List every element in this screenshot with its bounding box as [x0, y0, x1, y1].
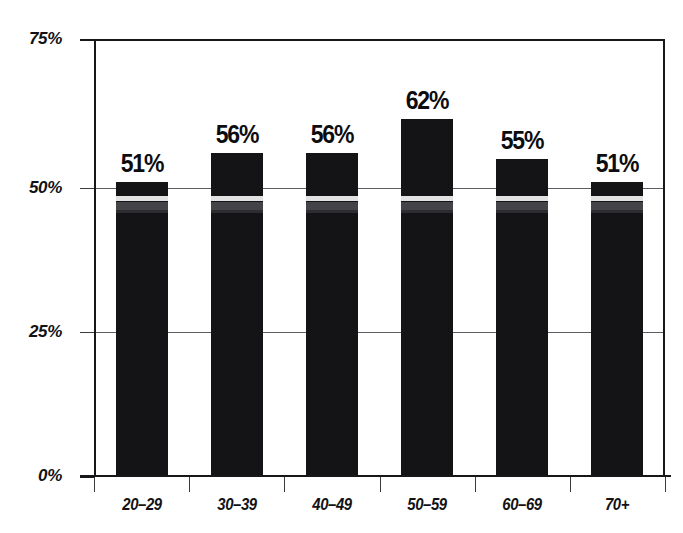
bar: [306, 153, 358, 476]
scan-artifact-band: [591, 210, 643, 213]
y-axis-tick-label: 75%: [0, 29, 62, 49]
y-axis-tick-label: 25%: [0, 322, 62, 342]
bar-value-label: 56%: [291, 120, 374, 149]
x-tick: [475, 477, 476, 492]
x-tick: [189, 477, 190, 492]
x-axis-line: [80, 475, 671, 477]
x-tick: [665, 477, 666, 492]
plot-right-border: [663, 39, 665, 476]
x-axis-category-label: 30–39: [191, 496, 284, 514]
y-axis-tick-label: 50%: [0, 178, 62, 198]
bar-value-label: 55%: [481, 126, 564, 155]
bar: [401, 119, 453, 476]
x-axis-category-label: 70+: [571, 496, 664, 514]
scan-artifact-band: [401, 202, 453, 210]
bar: [591, 182, 643, 476]
x-tick: [94, 477, 95, 492]
x-axis-category-label: 60–69: [476, 496, 569, 514]
scan-artifact-band: [496, 202, 548, 210]
gridline-25: [94, 332, 665, 333]
y-tick-50: [80, 188, 94, 189]
gridline-75: [94, 39, 665, 41]
scan-artifact-band: [211, 196, 263, 201]
x-tick: [284, 477, 285, 492]
scan-artifact-band: [401, 210, 453, 213]
scan-artifact-band: [116, 202, 168, 210]
plot-area: 0%25%50%75% 51%56%56%62%55%51% 20–2930–3…: [94, 44, 665, 476]
bar-value-label: 51%: [576, 149, 659, 178]
x-axis-category-label: 40–49: [286, 496, 379, 514]
bar-value-label: 62%: [386, 86, 469, 115]
x-tick: [380, 477, 381, 492]
scan-artifact-band: [496, 210, 548, 213]
bar: [116, 182, 168, 476]
scan-artifact-band: [116, 210, 168, 213]
bar-value-label: 56%: [196, 120, 279, 149]
bar: [496, 159, 548, 476]
scan-artifact-band: [211, 210, 263, 213]
scan-artifact-band: [306, 196, 358, 201]
x-tick: [570, 477, 571, 492]
scan-artifact-band: [591, 196, 643, 201]
scan-artifact-band: [401, 196, 453, 201]
bar-value-label: 51%: [101, 149, 184, 178]
scan-artifact-band: [306, 210, 358, 213]
scan-artifact-band: [496, 196, 548, 201]
gridline-50: [94, 188, 665, 189]
x-axis-category-label: 20–29: [96, 496, 189, 514]
scan-artifact-band: [211, 202, 263, 210]
y-axis-line: [94, 39, 96, 476]
y-tick-25: [80, 332, 94, 333]
y-axis-tick-label: 0%: [0, 466, 62, 486]
y-tick-75: [80, 39, 94, 41]
bar: [211, 153, 263, 476]
scan-artifact-band: [306, 202, 358, 210]
scan-artifact-band: [116, 196, 168, 201]
x-axis-category-label: 50–59: [381, 496, 474, 514]
scan-artifact-band: [591, 202, 643, 210]
bar-chart-figure: 0%25%50%75% 51%56%56%62%55%51% 20–2930–3…: [0, 0, 683, 533]
